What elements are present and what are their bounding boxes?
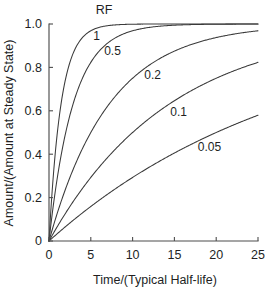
x-tick-label: 20: [209, 248, 223, 262]
y-tick-label: 0.8: [25, 61, 42, 75]
x-tick-label: 25: [251, 248, 265, 262]
x-tick-label: 5: [87, 248, 94, 262]
x-tick-label: 0: [46, 248, 53, 262]
x-tick-label: 15: [167, 248, 181, 262]
series-label-0-2: 0.2: [144, 68, 161, 82]
y-tick-label: 0.2: [25, 191, 42, 205]
x-tick-label: 10: [126, 248, 140, 262]
series-label-0-1: 0.1: [170, 105, 187, 119]
series-label-0-5: 0.5: [104, 44, 121, 58]
y-tick-label: 1.0: [25, 17, 42, 31]
series-label-0-05: 0.05: [198, 140, 222, 154]
x-axis-title: Time/(Typical Half-life): [93, 273, 217, 287]
y-tick-label: 0: [35, 234, 42, 248]
chart-figure: RF 00.20.40.60.81.0 0510152025 10.50.20.…: [0, 0, 269, 289]
series-label-1: 1: [93, 29, 100, 43]
y-axis-title: Amount/(Amount at Steady State): [2, 40, 16, 227]
y-tick-label: 0.6: [25, 104, 42, 118]
rf-accumulation-line-chart: RF 00.20.40.60.81.0 0510152025 10.50.20.…: [0, 0, 269, 289]
y-tick-label: 0.4: [25, 148, 42, 162]
chart-title: RF: [96, 3, 113, 17]
